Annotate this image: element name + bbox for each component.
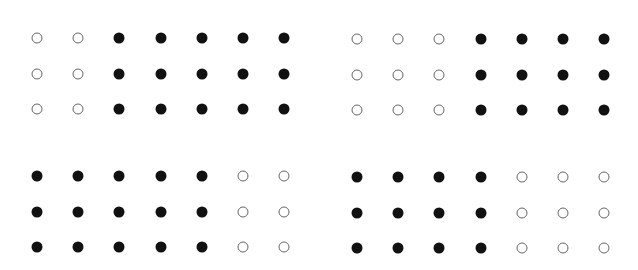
filled-circle-icon bbox=[155, 33, 166, 44]
filled-circle-icon bbox=[393, 243, 404, 254]
open-circle-icon bbox=[73, 68, 84, 79]
open-circle-icon bbox=[32, 68, 43, 79]
open-circle-icon bbox=[73, 104, 84, 115]
open-circle-icon bbox=[279, 242, 290, 253]
filled-circle-icon bbox=[393, 207, 404, 218]
filled-circle-icon bbox=[279, 104, 290, 115]
filled-circle-icon bbox=[196, 206, 207, 217]
filled-circle-icon bbox=[73, 206, 84, 217]
open-circle-icon bbox=[516, 243, 527, 254]
filled-circle-icon bbox=[114, 171, 125, 182]
filled-circle-icon bbox=[196, 171, 207, 182]
open-circle-icon bbox=[73, 33, 84, 44]
open-circle-icon bbox=[558, 172, 569, 183]
open-circle-icon bbox=[352, 105, 363, 116]
filled-circle-icon bbox=[155, 68, 166, 79]
filled-circle-icon bbox=[155, 171, 166, 182]
filled-circle-icon bbox=[279, 68, 290, 79]
filled-circle-icon bbox=[475, 172, 486, 183]
open-circle-icon bbox=[434, 34, 445, 45]
filled-circle-icon bbox=[558, 69, 569, 80]
filled-circle-icon bbox=[599, 34, 610, 45]
filled-circle-icon bbox=[352, 207, 363, 218]
filled-circle-icon bbox=[599, 69, 610, 80]
filled-circle-icon bbox=[352, 243, 363, 254]
open-circle-icon bbox=[599, 207, 610, 218]
filled-circle-icon bbox=[32, 206, 43, 217]
filled-circle-icon bbox=[558, 105, 569, 116]
filled-circle-icon bbox=[196, 33, 207, 44]
filled-circle-icon bbox=[238, 68, 249, 79]
filled-circle-icon bbox=[155, 104, 166, 115]
filled-circle-icon bbox=[434, 207, 445, 218]
filled-circle-icon bbox=[599, 105, 610, 116]
filled-circle-icon bbox=[238, 33, 249, 44]
filled-circle-icon bbox=[475, 69, 486, 80]
filled-circle-icon bbox=[434, 243, 445, 254]
open-circle-icon bbox=[352, 69, 363, 80]
filled-circle-icon bbox=[475, 207, 486, 218]
filled-circle-icon bbox=[114, 104, 125, 115]
open-circle-icon bbox=[393, 34, 404, 45]
open-circle-icon bbox=[558, 243, 569, 254]
filled-circle-icon bbox=[352, 172, 363, 183]
open-circle-icon bbox=[32, 33, 43, 44]
filled-circle-icon bbox=[114, 33, 125, 44]
filled-circle-icon bbox=[196, 242, 207, 253]
open-circle-icon bbox=[352, 34, 363, 45]
open-circle-icon bbox=[434, 105, 445, 116]
filled-circle-icon bbox=[114, 68, 125, 79]
open-circle-icon bbox=[393, 105, 404, 116]
open-circle-icon bbox=[434, 69, 445, 80]
filled-circle-icon bbox=[516, 34, 527, 45]
open-circle-icon bbox=[393, 69, 404, 80]
open-circle-icon bbox=[599, 172, 610, 183]
open-circle-icon bbox=[279, 206, 290, 217]
open-circle-icon bbox=[238, 242, 249, 253]
filled-circle-icon bbox=[196, 68, 207, 79]
filled-circle-icon bbox=[279, 33, 290, 44]
open-circle-icon bbox=[516, 172, 527, 183]
filled-circle-icon bbox=[73, 171, 84, 182]
filled-circle-icon bbox=[155, 242, 166, 253]
filled-circle-icon bbox=[32, 171, 43, 182]
open-circle-icon bbox=[238, 206, 249, 217]
filled-circle-icon bbox=[475, 34, 486, 45]
filled-circle-icon bbox=[114, 206, 125, 217]
filled-circle-icon bbox=[393, 172, 404, 183]
filled-circle-icon bbox=[73, 242, 84, 253]
open-circle-icon bbox=[279, 171, 290, 182]
filled-circle-icon bbox=[558, 34, 569, 45]
filled-circle-icon bbox=[155, 206, 166, 217]
filled-circle-icon bbox=[516, 69, 527, 80]
filled-circle-icon bbox=[196, 104, 207, 115]
filled-circle-icon bbox=[238, 104, 249, 115]
open-circle-icon bbox=[516, 207, 527, 218]
filled-circle-icon bbox=[434, 172, 445, 183]
filled-circle-icon bbox=[475, 105, 486, 116]
filled-circle-icon bbox=[32, 242, 43, 253]
open-circle-icon bbox=[238, 171, 249, 182]
open-circle-icon bbox=[599, 243, 610, 254]
open-circle-icon bbox=[558, 207, 569, 218]
filled-circle-icon bbox=[516, 105, 527, 116]
open-circle-icon bbox=[32, 104, 43, 115]
filled-circle-icon bbox=[114, 242, 125, 253]
filled-circle-icon bbox=[475, 243, 486, 254]
